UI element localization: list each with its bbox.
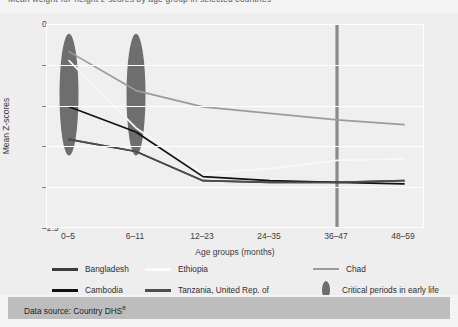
gridline-1: [47, 65, 425, 66]
legend-label: Bangladesh: [85, 264, 129, 274]
data-source-reference: 8: [122, 305, 125, 311]
legend-label: Critical periods in early life: [342, 285, 439, 295]
footer: Data source: Country DHS8: [0, 295, 458, 327]
legend-item-tanzania[interactable]: Tanzania, United Rep. of: [145, 285, 269, 295]
x-tick-3: 24–35: [257, 231, 281, 241]
chart-series-layer: [47, 24, 425, 228]
chart-card: Mean Z-scores 0 –0.5 –1.0 –1.5 –2.0 –2.5…: [0, 13, 458, 295]
legend-label: Ethiopia: [178, 264, 208, 274]
series-line: [69, 107, 404, 184]
data-source-label: Data source: Country DHS: [24, 306, 122, 316]
legend-swatch-line-icon: [52, 268, 78, 271]
legend-label: Tanzania, United Rep. of: [178, 285, 269, 295]
footer-bar: Data source: Country DHS8: [8, 297, 450, 319]
series-line: [69, 61, 404, 174]
legend-item-ethiopia[interactable]: Ethiopia: [145, 264, 208, 274]
x-tick-0: 0–5: [61, 231, 75, 241]
gridline-3: [47, 146, 425, 147]
legend-swatch-line-icon: [145, 289, 171, 292]
legend-swatch-line-icon: [52, 289, 78, 292]
clipped-caption-strip: Mean weight-for-height z-scores by age g…: [0, 0, 458, 13]
gridline-5: [47, 227, 425, 228]
legend-swatch-line-icon: [313, 268, 339, 270]
x-tick-2: 12–23: [190, 231, 214, 241]
vertical-marker-bar: [335, 24, 338, 228]
x-tick-5: 48–59: [391, 231, 415, 241]
plot-right-border: [423, 24, 424, 228]
gridline-0: [47, 24, 425, 25]
y-axis-label: Mean Z-scores: [1, 98, 11, 155]
legend-item-chad[interactable]: Chad: [313, 264, 366, 274]
legend-item-cambodia[interactable]: Cambodia: [52, 285, 123, 295]
plot-area: [46, 24, 424, 228]
x-tick-4: 36–47: [324, 231, 348, 241]
data-source-text: Data source: Country DHS8: [24, 305, 126, 316]
legend-label: Chad: [346, 264, 366, 274]
gridline-4: [47, 187, 425, 188]
x-tick-1: 6–11: [126, 231, 144, 241]
gridline-2: [47, 106, 425, 107]
clipped-caption-text: Mean weight-for-height z-scores by age g…: [8, 0, 271, 4]
legend-label: Cambodia: [85, 285, 123, 295]
legend-swatch-line-icon: [145, 268, 171, 271]
chart-screenshot: Mean weight-for-height z-scores by age g…: [0, 0, 458, 327]
legend-item-bangladesh[interactable]: Bangladesh: [52, 264, 129, 274]
x-axis-label: Age groups (months): [195, 247, 274, 257]
series-line: [69, 52, 404, 125]
